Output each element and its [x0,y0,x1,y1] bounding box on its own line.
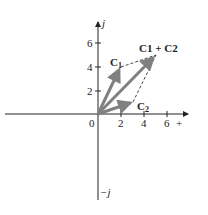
label-c2: C2 [137,100,149,114]
imag-positive-label: j [100,17,105,29]
imag-negative-label: −j [100,186,110,198]
origin-label: 0 [89,117,95,129]
real-positive-label: + [176,117,182,129]
y-tick-2: 2 [87,85,93,97]
label-c1: C1 [110,56,122,70]
x-tick-4: 4 [141,117,147,129]
vector-diagram: 2 4 6 + 0 2 4 6 j −j C1 C2 C1 + C2 [0,0,208,215]
x-tick-6: 6 [164,117,170,129]
x-tick-2: 2 [118,117,124,129]
label-c1-plus-c2: C1 + C2 [139,42,178,54]
y-tick-6: 6 [87,37,93,49]
y-tick-4: 4 [87,61,93,73]
